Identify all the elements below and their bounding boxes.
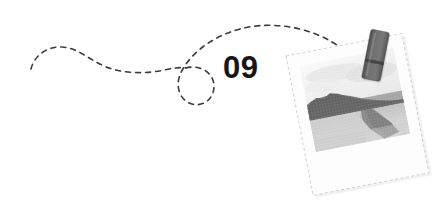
illustration-artboard [0, 0, 444, 216]
coastal-landscape-photo [299, 47, 410, 152]
photo-grain [299, 47, 410, 152]
slide-canvas: 09 [0, 0, 444, 216]
section-number: 09 [223, 52, 258, 83]
